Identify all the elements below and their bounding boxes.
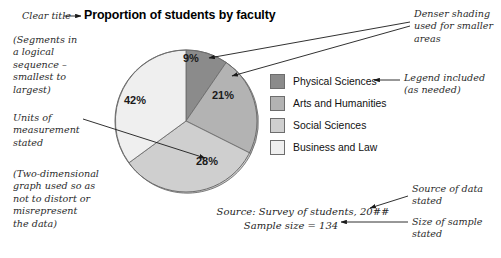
legend-swatch-social-sciences [270, 118, 285, 133]
chart-legend: Physical Sciences Arts and Humanities So… [270, 72, 400, 160]
leader-denser-shading-b [232, 26, 410, 76]
legend-swatch-physical-sciences [270, 74, 285, 89]
pie-slice-social-sciences [129, 121, 251, 193]
source-line: Source: Survey of students, 20## [208, 205, 398, 219]
annotation-legend-included: Legend included (as needed) [404, 72, 485, 97]
source-block: Source: Survey of students, 20## Sample … [208, 205, 398, 233]
legend-item-arts-and-humanities: Arts and Humanities [270, 94, 400, 113]
figure-canvas: Clear title (Segments in a logical seque… [0, 0, 501, 258]
annotation-two-dimensional: (Two-dimensional graph used so as not to… [13, 168, 99, 230]
leader-denser-shading-a [209, 22, 410, 58]
sample-size-line: Sample size = 134 [208, 219, 398, 233]
chart-title: Proportion of students by faculty [84, 8, 276, 22]
legend-item-business-and-law: Business and Law [270, 138, 400, 157]
pie-slice-business-and-law [115, 50, 186, 163]
legend-label-business-and-law: Business and Law [293, 142, 377, 153]
legend-label-social-sciences: Social Sciences [293, 120, 366, 131]
pie-slices [115, 50, 258, 193]
legend-label-physical-sciences: Physical Sciences [293, 76, 377, 87]
annotation-clear-title: Clear title [22, 10, 71, 22]
annotation-source-of-data: Source of data stated [412, 183, 483, 208]
legend-item-social-sciences: Social Sciences [270, 116, 400, 135]
annotation-denser-shading: Denser shading used for smaller areas [414, 8, 493, 45]
leader-units [83, 119, 205, 158]
legend-label-arts-and-humanities: Arts and Humanities [293, 98, 387, 109]
annotation-segment-order: (Segments in a logical sequence – smalle… [13, 34, 77, 96]
slice-label-social-sciences: 28% [196, 155, 218, 167]
annotation-units: Units of measurement stated [13, 112, 80, 149]
legend-swatch-business-and-law [270, 140, 285, 155]
pie-slice-arts-and-humanities [186, 63, 258, 154]
annotation-sample-size: Size of sample stated [412, 216, 482, 241]
legend-swatch-arts-and-humanities [270, 96, 285, 111]
slice-label-arts-and-humanities: 21% [212, 89, 234, 101]
slice-label-physical-sciences: 9% [183, 52, 199, 64]
slice-label-business-and-law: 42% [124, 94, 146, 106]
legend-item-physical-sciences: Physical Sciences [270, 72, 400, 91]
